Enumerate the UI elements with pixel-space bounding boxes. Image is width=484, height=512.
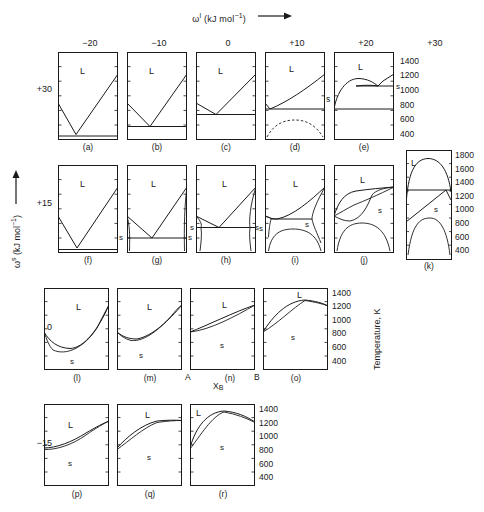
panel-caption-m: (m) [120, 373, 180, 383]
liquid-label-o: L [297, 290, 302, 300]
column-header-1: −10 [131, 38, 187, 48]
panel-caption-l: (l) [47, 373, 107, 383]
solid-label-i-inner: s [305, 220, 309, 229]
omega-l-symbol: ω [192, 14, 199, 24]
liquid-label-n: L [222, 300, 227, 310]
panel-caption-i: (i) [265, 255, 325, 265]
panel-caption-f: (f) [58, 255, 118, 265]
top-axis-units: (kJ mol [201, 14, 234, 24]
panel-a: L [58, 52, 118, 140]
solid-label-q: s [147, 453, 151, 462]
omega-s-superscript: s [10, 257, 17, 261]
ytick-row3-600: 600 [332, 342, 346, 352]
panel-caption-a: (a) [58, 142, 118, 152]
panel-h: L [196, 165, 256, 253]
panel-caption-q: (q) [120, 489, 180, 499]
temperature-axis-label: Temperature, K [372, 308, 382, 370]
ytick-k-800: 800 [455, 218, 469, 228]
panel-n: L s [190, 288, 255, 370]
panel-caption-g: (g) [127, 255, 187, 265]
solid-label-m: s [139, 351, 143, 360]
liquid-label-m: L [147, 302, 152, 312]
panel-o: L s [263, 288, 328, 370]
liquid-label-q: L [145, 410, 150, 420]
ytick-k-1800: 1800 [455, 150, 474, 160]
panel-k: L s [406, 150, 452, 260]
liquid-label-b: L [149, 66, 154, 76]
liquid-label-h: L [222, 179, 227, 189]
panel-caption-n: (n) [200, 373, 260, 383]
x-axis-title: XB [213, 381, 223, 391]
liquid-label-r: L [196, 408, 201, 418]
left-axis-units: (kJ mol [12, 226, 22, 258]
right-arrow-icon [258, 12, 292, 22]
ytick-row1-600: 600 [400, 114, 414, 124]
panel-d: L [265, 52, 325, 140]
left-axis-label: ωs (kJ mol−1) [10, 170, 22, 268]
column-header-0: −20 [62, 38, 118, 48]
ytick-k-600: 600 [455, 232, 469, 242]
liquid-label-l: L [76, 302, 81, 312]
solid-label-l: s [70, 357, 74, 366]
panel-caption-o: (o) [266, 373, 326, 383]
panel-i: L s [265, 165, 325, 253]
ytick-row4-600: 600 [259, 459, 273, 469]
solid-label-h-left: s [190, 223, 194, 232]
liquid-label-c: L [218, 66, 223, 76]
column-header-3: +10 [269, 38, 325, 48]
liquid-label-d: L [289, 64, 294, 74]
left-axis-units-close: ) [12, 215, 22, 218]
panel-caption-b: (b) [127, 142, 187, 152]
solid-label-n: s [220, 341, 224, 350]
ytick-row4-800: 800 [259, 445, 273, 455]
panel-q: L s [117, 404, 182, 486]
ytick-row3-400: 400 [332, 356, 346, 366]
ytick-k-1200: 1200 [455, 191, 474, 201]
ytick-row4-400: 400 [259, 472, 273, 482]
left-axis-exponent: −1 [10, 218, 17, 226]
top-axis-exponent: −1 [234, 12, 242, 19]
solid-label-r: s [220, 443, 224, 452]
column-header-5: +30 [407, 38, 463, 48]
solid-label-p: s [68, 459, 72, 468]
panel-j: L s [334, 165, 394, 253]
panel-b: L [127, 52, 187, 140]
solid-label-k: s [434, 205, 438, 214]
x-axis-right-endpoint: B [254, 372, 260, 382]
liquid-label-k: L [411, 158, 416, 168]
solid-label-j: s [378, 206, 382, 215]
solid-label-g-right: s [188, 233, 192, 242]
panel-f: L [58, 165, 118, 253]
ytick-row1-1000: 1000 [400, 85, 419, 95]
x-axis-subscript: B [219, 384, 224, 391]
omega-s-symbol: ω [12, 261, 22, 268]
ytick-row3-1000: 1000 [332, 315, 351, 325]
liquid-label-p: L [68, 420, 73, 430]
panel-l: L s [44, 288, 109, 370]
ytick-row3-1400: 1400 [332, 288, 351, 298]
panel-caption-p: (p) [47, 489, 107, 499]
top-axis-units-close: ) [243, 14, 246, 24]
panel-caption-j: (j) [334, 255, 394, 265]
ytick-k-1400: 1400 [455, 177, 474, 187]
solid-label-d: s [326, 94, 330, 104]
top-axis-label: ωl (kJ mol−1) [0, 12, 484, 24]
panel-c: L [196, 52, 256, 140]
liquid-label-g: L [151, 179, 156, 189]
liquid-label-j: L [360, 175, 365, 185]
ytick-row4-1400: 1400 [259, 404, 278, 414]
ytick-row3-800: 800 [332, 328, 346, 338]
panel-caption-k: (k) [399, 261, 459, 271]
ytick-row1-1400: 1400 [400, 56, 419, 66]
panel-caption-e: (e) [334, 142, 394, 152]
ytick-row1-800: 800 [400, 100, 414, 110]
liquid-label-f: L [80, 179, 85, 189]
panel-p: L s [44, 404, 109, 486]
ytick-k-1600: 1600 [455, 164, 474, 174]
ytick-row1-1200: 1200 [400, 70, 419, 80]
ytick-row3-1200: 1200 [332, 301, 351, 311]
solid-label-g-left: s [119, 233, 123, 242]
solid-label-i-left: s [259, 224, 263, 233]
panel-caption-r: (r) [193, 489, 253, 499]
ytick-row1-400: 400 [400, 129, 414, 139]
